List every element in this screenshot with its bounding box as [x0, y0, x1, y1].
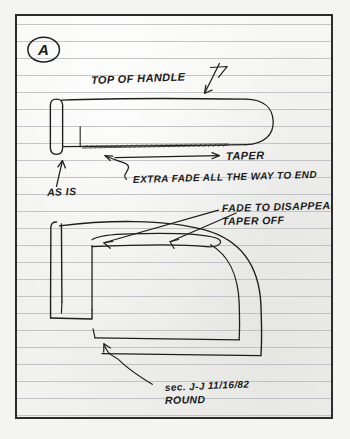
taper-leader-line	[115, 156, 220, 158]
handle-nose-round	[246, 99, 273, 145]
handle-butt-cap	[50, 99, 62, 154]
sec-jj-leader	[104, 344, 152, 385]
label-as-is: AS IS	[47, 185, 77, 198]
section-outer-base	[102, 354, 261, 356]
section-left-slab-foot	[51, 310, 92, 319]
label-section-date: 11/16/82	[208, 379, 250, 391]
section-inner-base	[95, 338, 239, 340]
taper-hatching	[82, 144, 228, 149]
screenshot-root: A TOP OF HANDLE TAPER AS IS EXTRA FADE A…	[0, 0, 350, 439]
notebook-page: A TOP OF HANDLE TAPER AS IS EXTRA FADE A…	[15, 14, 333, 419]
section-outer-outline	[59, 222, 261, 356]
section-inner-right-curve	[211, 245, 240, 340]
fade-disappear-leader	[104, 210, 219, 243]
label-taper-off: TAPER OFF	[222, 214, 285, 227]
label-section-jj: sec. J-J	[165, 381, 205, 393]
handle-top-edge	[61, 99, 246, 101]
fade-disappear-arrowhead	[104, 241, 113, 248]
label-taper: TAPER	[226, 149, 265, 162]
label-section-round: ROUND	[165, 393, 206, 406]
section-left-slab	[51, 222, 57, 318]
pencil-drawing-layer: A TOP OF HANDLE TAPER AS IS EXTRA FADE A…	[17, 16, 331, 417]
section-inner-top-face	[92, 245, 207, 247]
sheet-marker-label: A	[38, 41, 49, 58]
section-inner-base-left-tick	[93, 329, 95, 338]
